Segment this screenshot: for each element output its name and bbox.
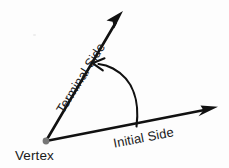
- angle-arc: [93, 58, 138, 126]
- background-speck: [33, 34, 36, 36]
- terminal-side-arrowhead-icon: [107, 11, 124, 29]
- vertex-point-marker: [43, 138, 50, 145]
- vertex-label: Vertex: [15, 148, 54, 163]
- angle-arc-path: [99, 64, 138, 127]
- angle-diagram: Vertex Initial Side Terminal Side: [0, 0, 229, 168]
